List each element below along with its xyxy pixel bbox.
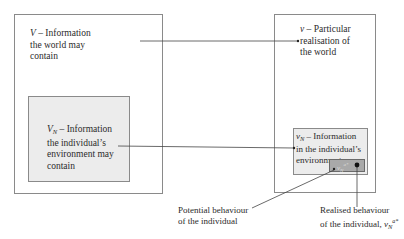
potential-behaviour-label: Potential behaviour of the individual [178,205,248,227]
realised-point-icon [355,163,360,168]
connector-lines [0,0,404,239]
potential-pointer-icon [333,168,335,170]
realised-behaviour-label: Realised behaviour of the individual, vN… [320,205,398,232]
top-arrow-head-icon [297,40,299,42]
middle-arrow-head-icon [293,147,295,149]
